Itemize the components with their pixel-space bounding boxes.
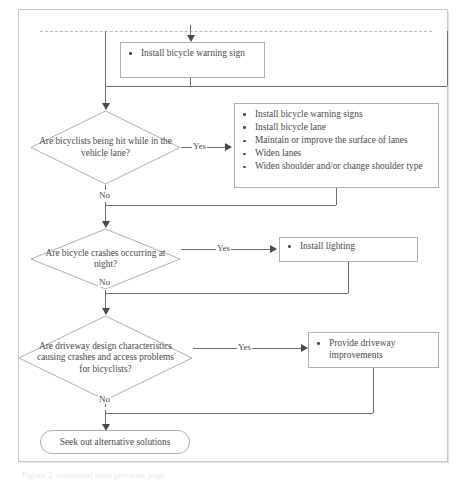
arrow-decision-3-yes-icon bbox=[301, 344, 308, 352]
action-provide-driveway-improvements[interactable]: Provide driveway improvements bbox=[308, 332, 439, 368]
branch-label-no-3: No bbox=[98, 394, 111, 404]
branch-label-yes-2: Yes bbox=[216, 243, 231, 253]
arrow-into-decision-1-icon bbox=[102, 103, 110, 110]
connector-action-2-return-riser bbox=[348, 262, 349, 293]
terminal-seek-alternative-solutions[interactable]: Seek out alternative solutions bbox=[40, 430, 190, 454]
connector-left-spine-top bbox=[105, 31, 106, 86]
action-item: Install bicycle warning sign bbox=[126, 48, 258, 60]
connector-top-action-out bbox=[190, 78, 191, 86]
figure-caption: Figure 2. continued from previous page bbox=[22, 470, 342, 481]
branch-label-no-1: No bbox=[98, 190, 111, 200]
connector-action-3-return-bar bbox=[105, 413, 373, 414]
decision-driveway-design-problems[interactable]: Are driveway design characteristics caus… bbox=[18, 315, 193, 401]
branch-label-yes-1: Yes bbox=[192, 141, 207, 151]
page-break-dashed-line bbox=[40, 31, 432, 32]
connector-action-3-return-riser bbox=[373, 368, 374, 413]
action-item: Widen lanes bbox=[240, 148, 432, 160]
arrow-into-decision-3-icon bbox=[102, 308, 110, 315]
arrow-into-decision-2-icon bbox=[102, 221, 110, 228]
branch-label-no-2: No bbox=[98, 277, 111, 287]
action-install-bicycle-warning-sign[interactable]: Install bicycle warning sign bbox=[120, 42, 265, 78]
action-item: Provide driveway improvements bbox=[314, 338, 432, 361]
action-item: Widen shoulder and/or change shoulder ty… bbox=[240, 161, 432, 173]
arrow-into-top-action-icon bbox=[187, 35, 195, 42]
connector-action-1-return-riser bbox=[336, 188, 337, 205]
decision-label: Are bicyclists being hit while in the ve… bbox=[30, 110, 181, 185]
connector-action-1-return-bar bbox=[105, 205, 336, 206]
branch-label-yes-3: Yes bbox=[237, 342, 252, 352]
connector-decision-1-no-lower bbox=[105, 202, 106, 223]
action-item: Maintain or improve the surface of lanes bbox=[240, 135, 432, 147]
terminal-label: Seek out alternative solutions bbox=[60, 437, 171, 447]
arrow-decision-2-yes-icon bbox=[270, 245, 277, 253]
action-item: Install bicycle lane bbox=[240, 122, 432, 134]
arrow-decision-1-yes-icon bbox=[225, 143, 232, 151]
decision-bicyclists-hit-in-vehicle-lane[interactable]: Are bicyclists being hit while in the ve… bbox=[30, 110, 181, 185]
connector-action-2-return-bar bbox=[105, 293, 348, 294]
action-item: Install lighting bbox=[285, 241, 411, 253]
action-vehicle-lane-countermeasures[interactable]: Install bicycle warning signs Install bi… bbox=[234, 103, 439, 188]
decision-label: Are driveway design characteristics caus… bbox=[18, 315, 193, 401]
connector-top-junction-bar bbox=[105, 86, 447, 87]
action-install-lighting[interactable]: Install lighting bbox=[279, 237, 418, 262]
connector-right-return-riser bbox=[447, 31, 448, 86]
action-item: Install bicycle warning signs bbox=[240, 109, 432, 121]
